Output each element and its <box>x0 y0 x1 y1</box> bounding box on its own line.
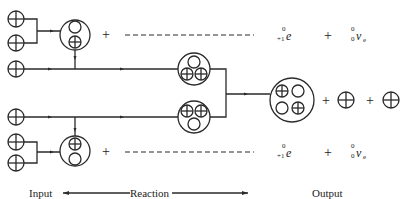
plus-sign: + <box>366 93 374 108</box>
plus-sign: + <box>322 93 330 108</box>
plus-sign: + <box>102 144 110 159</box>
output-label: Output <box>312 187 343 199</box>
positron-symbol-lower: 0 +1 e <box>277 142 292 160</box>
proton-icon <box>383 92 399 108</box>
neutrino-symbol-upper: 0 0 v e <box>351 25 366 44</box>
plus-sign: + <box>102 27 110 42</box>
reaction-label: Reaction <box>130 187 170 199</box>
positron-symbol-upper: 0 +1 e <box>277 25 292 43</box>
helium-3-nucleus-icon <box>178 101 210 133</box>
proton-icon <box>8 11 24 27</box>
upper-input-protons <box>8 11 24 77</box>
merge-bracket-upper <box>24 19 60 43</box>
svg-text:e: e <box>286 29 292 43</box>
svg-text:0: 0 <box>351 152 355 160</box>
proton-icon <box>8 35 24 51</box>
svg-text:v: v <box>356 29 362 43</box>
proton-icon <box>8 155 24 171</box>
plus-sign: + <box>324 28 332 43</box>
merge-bracket-lower <box>24 142 60 163</box>
svg-text:+1: +1 <box>277 35 285 43</box>
deuterium-nucleus-icon <box>60 136 90 166</box>
pp-chain-diagram: + 0 +1 e + 0 0 v e + 0 +1 e + <box>0 0 410 199</box>
neutrino-symbol-lower: 0 0 v e <box>351 142 366 161</box>
svg-text:e: e <box>286 146 292 160</box>
proton-icon <box>8 134 24 150</box>
svg-text:0: 0 <box>351 142 355 150</box>
deuterium-nucleus-icon <box>60 20 90 50</box>
proton-icon <box>338 92 354 108</box>
merge-bracket-helium <box>210 69 270 117</box>
lower-input-protons <box>8 109 24 171</box>
svg-text:0: 0 <box>351 25 355 33</box>
helium-4-nucleus-icon <box>270 78 314 122</box>
svg-text:+1: +1 <box>277 152 285 160</box>
proton-icon <box>8 61 24 77</box>
input-label: Input <box>29 187 52 199</box>
proton-icon <box>8 109 24 125</box>
plus-sign: + <box>324 145 332 160</box>
helium-3-nucleus-icon <box>178 53 210 85</box>
svg-text:e: e <box>363 153 366 161</box>
svg-text:v: v <box>356 146 362 160</box>
svg-text:e: e <box>363 36 366 44</box>
svg-text:0: 0 <box>351 35 355 43</box>
